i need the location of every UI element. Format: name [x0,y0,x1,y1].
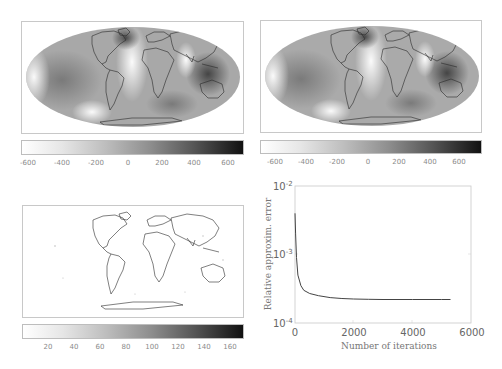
error-curve [295,213,451,299]
chart-plot-area [0,0,502,369]
ytick-1e-4: 10-4 [273,317,293,329]
xtick-6000: 6000 [459,327,484,338]
xtick-0: 0 [292,327,298,338]
ytick-1e-2: 10-2 [273,180,293,192]
ytick-1e-3: 10-3 [273,248,293,260]
y-axis-label: Relative approxim. error [263,198,273,311]
x-axis-label: Number of iterations [341,341,437,351]
xtick-4000: 4000 [400,327,425,338]
xtick-2000: 2000 [341,327,366,338]
